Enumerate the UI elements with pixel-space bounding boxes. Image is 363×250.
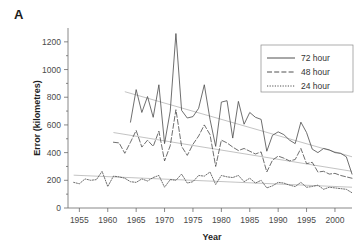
y-axis-ticks: 020040060080010001200 [42, 37, 68, 213]
trend-line [74, 175, 352, 187]
y-tick-label: 1200 [42, 37, 61, 47]
trend-lines-group [74, 92, 352, 188]
series-line-48-hour [113, 110, 352, 179]
legend-label-0: 72 hour [301, 53, 330, 63]
x-tick-label: 1955 [70, 215, 89, 225]
x-tick-label: 1960 [98, 215, 117, 225]
x-tick-label: 1980 [212, 215, 231, 225]
error-vs-year-line-chart: 020040060080010001200 195519601965197019… [0, 0, 363, 250]
x-tick-label: 1985 [240, 215, 259, 225]
figure-panel-a: A 020040060080010001200 1955196019651970… [0, 0, 363, 250]
y-tick-label: 1000 [42, 65, 61, 75]
x-tick-label: 1970 [155, 215, 174, 225]
y-tick-label: 0 [56, 203, 61, 213]
x-tick-label: 2000 [325, 215, 344, 225]
legend-label-1: 48 hour [301, 67, 330, 77]
x-tick-label: 1995 [297, 215, 316, 225]
x-tick-label: 1990 [269, 215, 288, 225]
legend-label-2: 24 hour [301, 81, 330, 91]
y-tick-label: 600 [47, 120, 61, 130]
chart-legend: 72 hour48 hour24 hour [261, 45, 353, 92]
x-tick-label: 1965 [127, 215, 146, 225]
x-axis-title: Year [202, 232, 222, 242]
y-tick-label: 200 [47, 175, 61, 185]
y-axis-title: Error (kilometres) [32, 80, 42, 156]
x-tick-label: 1975 [183, 215, 202, 225]
x-axis-ticks: 1955196019651970197519801985199019952000 [70, 208, 345, 225]
series-line-24-hour [74, 171, 352, 192]
y-tick-label: 400 [47, 148, 61, 158]
y-tick-label: 800 [47, 92, 61, 102]
